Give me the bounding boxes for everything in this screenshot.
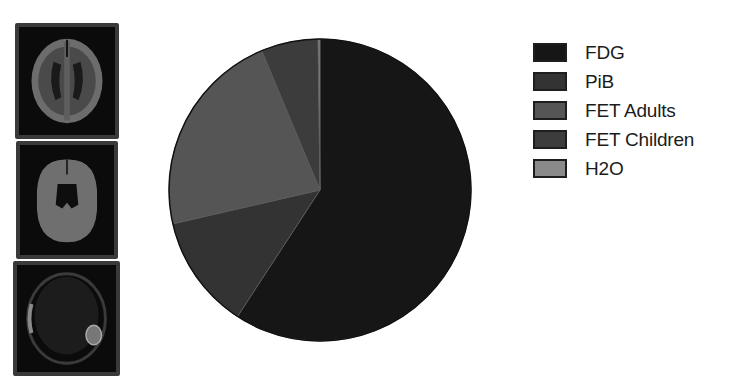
- legend-label-fet-children: FET Children: [585, 130, 694, 149]
- legend-swatch-fet-children: [533, 130, 567, 149]
- legend-label-fdg: FDG: [585, 43, 625, 62]
- legend-swatch-h2o: [533, 159, 567, 178]
- legend-item-fdg: FDG: [533, 43, 694, 62]
- legend-item-pib: PiB: [533, 72, 694, 91]
- legend-item-fet-adults: FET Adults: [533, 101, 694, 120]
- legend-swatch-fet-adults: [533, 101, 567, 120]
- legend-item-fet-children: FET Children: [533, 130, 694, 149]
- legend-swatch-pib: [533, 72, 567, 91]
- legend-swatch-fdg: [533, 43, 567, 62]
- legend-label-fet-adults: FET Adults: [585, 101, 676, 120]
- legend-item-h2o: H2O: [533, 159, 694, 178]
- chart-legend: FDG PiB FET Adults FET Children H2O: [533, 43, 694, 188]
- legend-label-pib: PiB: [585, 72, 614, 91]
- legend-label-h2o: H2O: [585, 159, 623, 178]
